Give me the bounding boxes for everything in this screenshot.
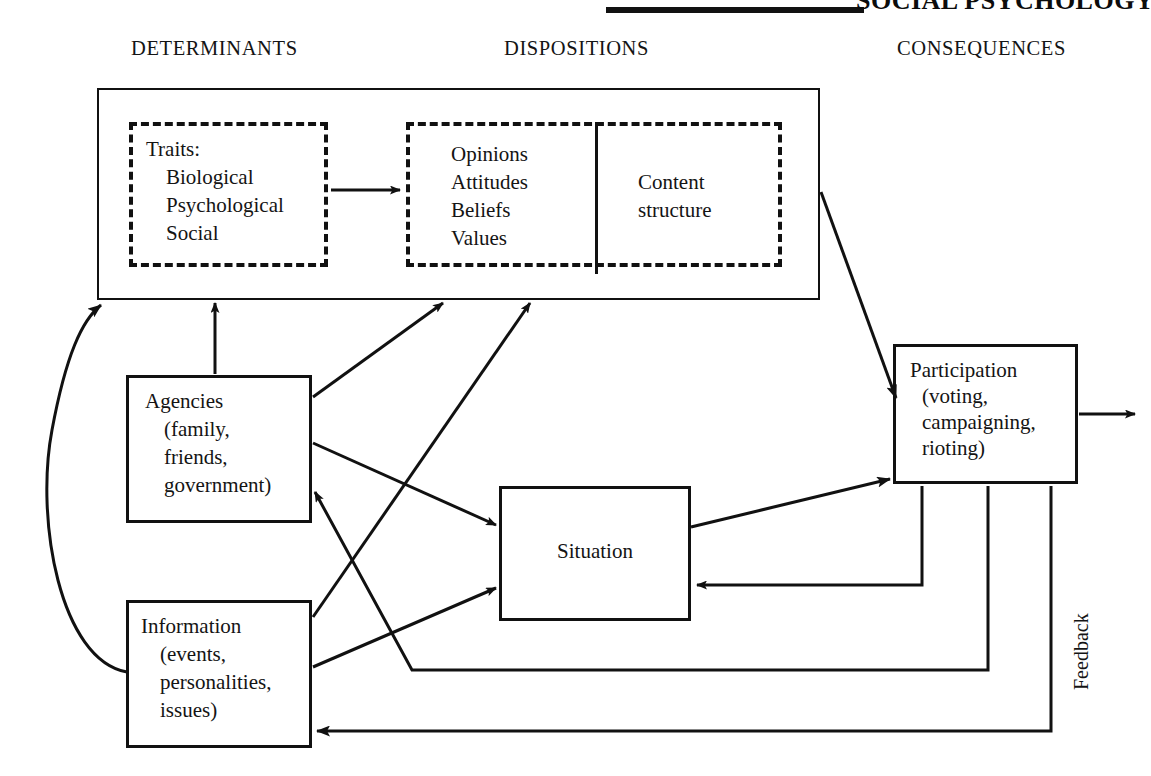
edge-participation-to-agencies-feedback xyxy=(315,486,988,670)
edge-participation-to-information-feedback xyxy=(317,486,1051,731)
edge-information-to-dispositions-frame xyxy=(313,303,530,617)
connector-layer xyxy=(0,0,1151,776)
diagram-canvas: SOCIAL PSYCHOLOGY DETERMINANTS DISPOSITI… xyxy=(0,0,1151,776)
edge-agencies-to-dispositions-frame xyxy=(313,303,443,397)
edge-dispositions-frame-to-participation xyxy=(821,192,896,398)
edge-information-to-determinants-frame-curved xyxy=(47,305,127,672)
edge-situation-to-participation xyxy=(691,479,890,527)
edge-participation-to-situation-feedback xyxy=(697,486,922,585)
